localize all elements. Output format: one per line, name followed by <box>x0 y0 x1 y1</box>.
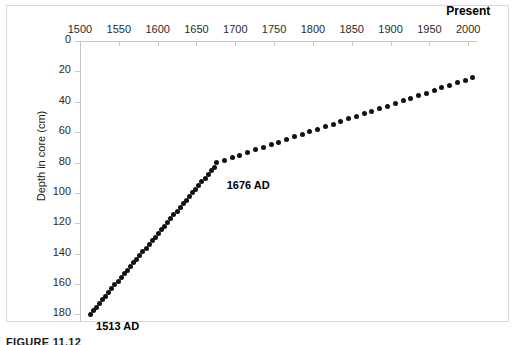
data-point <box>463 78 468 83</box>
data-point <box>323 124 328 129</box>
data-point <box>245 150 250 155</box>
y-tick-label-160: 160 <box>41 276 71 288</box>
data-point <box>416 93 421 98</box>
data-point <box>408 96 413 101</box>
figure-container: 1500155016001650170017501800185019001950… <box>0 0 516 345</box>
data-point <box>455 80 460 85</box>
annotation-1676-ad: 1676 AD <box>227 179 270 191</box>
annotation-1513-ad: 1513 AD <box>96 320 139 332</box>
data-point <box>369 109 374 114</box>
data-point <box>439 85 444 90</box>
plot-area: 1513 AD1676 AD <box>80 41 476 322</box>
y-tick-label-180: 180 <box>41 306 71 318</box>
data-point <box>331 122 336 127</box>
data-point <box>385 104 390 109</box>
data-point <box>447 83 452 88</box>
y-axis-title: Depth in core (cm) <box>35 71 47 241</box>
y-tick-label-0: 0 <box>41 33 71 45</box>
data-point <box>470 75 475 80</box>
data-point <box>237 153 242 158</box>
data-point <box>253 147 258 152</box>
data-point <box>401 98 406 103</box>
y-tick-label-140: 140 <box>41 246 71 258</box>
data-point <box>300 132 305 137</box>
present-label: Present <box>423 4 513 18</box>
data-point <box>432 88 437 93</box>
data-point <box>269 142 274 147</box>
data-point <box>338 119 343 124</box>
data-point <box>362 111 367 116</box>
data-point <box>424 91 429 96</box>
data-point <box>261 145 266 150</box>
data-point <box>230 155 235 160</box>
data-point <box>346 116 351 121</box>
x-tick-label-2000: 2000 <box>438 23 498 35</box>
data-point <box>214 160 219 165</box>
data-point <box>284 137 289 142</box>
data-point <box>307 129 312 134</box>
data-point <box>222 158 227 163</box>
data-point <box>354 114 359 119</box>
data-point <box>393 101 398 106</box>
figure-caption: FIGURE 11.12 <box>6 336 81 345</box>
data-point <box>212 165 217 170</box>
data-point <box>276 140 281 145</box>
data-point <box>292 134 297 139</box>
data-point <box>315 127 320 132</box>
data-point <box>377 106 382 111</box>
